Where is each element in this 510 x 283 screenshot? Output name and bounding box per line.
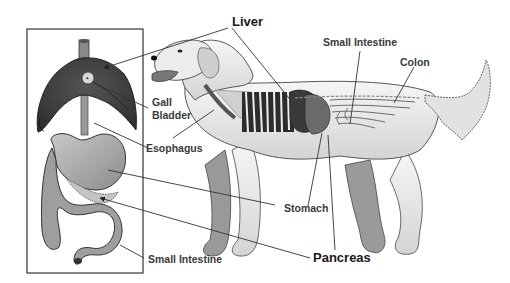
- label-colon: Colon: [400, 56, 430, 68]
- dog-front-leg-far: [204, 150, 231, 256]
- label-small-intestine-top: Small Intestine: [323, 36, 397, 48]
- dog-eye: [178, 50, 183, 53]
- digestive-diagram: Liver Gall Bladder Esophagus Small Intes…: [0, 0, 510, 283]
- label-stomach: Stomach: [284, 202, 328, 214]
- dog-nose: [151, 56, 157, 61]
- label-liver: Liver: [232, 14, 263, 29]
- label-small-intestine-bottom: Small Intestine: [148, 253, 222, 265]
- label-gall-bladder-line2: Bladder: [152, 109, 191, 121]
- label-gall-bladder-line1: Gall: [152, 96, 172, 108]
- label-pancreas: Pancreas: [313, 250, 371, 265]
- diagram-canvas: [0, 0, 510, 283]
- dog-front-leg-near: [232, 140, 260, 256]
- intestine-end: [74, 258, 82, 264]
- dog-back-leg-far: [345, 160, 385, 253]
- dog-back-leg-near: [390, 150, 422, 254]
- label-esophagus: Esophagus: [146, 142, 203, 154]
